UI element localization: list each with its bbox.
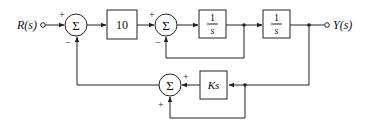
ks-label: Ks [207,79,220,91]
summing-junction-3: Σ [159,74,181,96]
sigma-symbol: Σ [166,78,174,93]
integrator-block-2: 1 s [263,10,290,38]
int1-denominator: s [211,25,215,36]
sum2-plus-sign: + [149,9,155,20]
int2-denominator: s [275,25,279,36]
integrator-block-1: 1 s [199,10,226,38]
derivative-gain-block: Ks [200,71,227,99]
sum3-right-plus-sign: + [183,71,189,82]
sum3-bottom-plus-sign: + [158,99,164,110]
sum2-minus-sign: − [155,37,161,48]
sum3-to-sum1-wire [77,37,159,85]
output-label: Y(s) [333,18,352,32]
input-terminal [41,23,46,28]
summing-junction-2: Σ [155,14,177,36]
sum1-minus-sign: − [65,37,71,48]
output-terminal [325,23,330,28]
int2-numerator: 1 [274,12,279,23]
gain-label: 10 [116,18,128,32]
sigma-symbol: Σ [162,18,170,33]
block-diagram: R(s) Σ + − 10 Σ + − 1 s 1 s Y(s) [0,0,370,129]
gain-block: 10 [107,10,137,39]
summing-junction-1: Σ [65,14,87,36]
sum1-plus-sign: + [59,9,65,20]
input-label: R(s) [16,18,37,32]
int1-numerator: 1 [210,12,215,23]
sigma-symbol: Σ [72,18,80,33]
